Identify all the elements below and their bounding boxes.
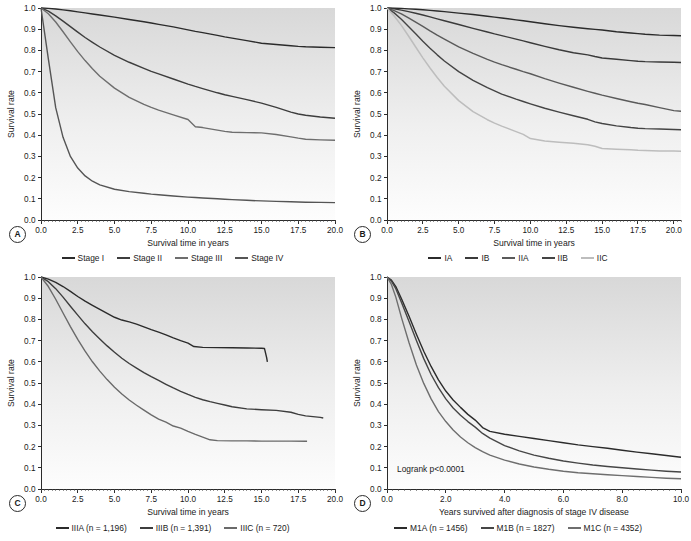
svg-text:0.8: 0.8 <box>24 46 36 55</box>
svg-text:15.0: 15.0 <box>254 226 270 235</box>
panel-a-plot: 0.00.10.20.30.40.50.60.70.80.91.00.02.55… <box>0 0 345 270</box>
legend-item-label: M1A (n = 1456) <box>410 523 468 533</box>
legend-line-icon <box>568 527 581 529</box>
svg-text:17.5: 17.5 <box>630 226 646 235</box>
legend-item-iia[interactable]: IIA <box>502 253 528 263</box>
legend-item-iiib[interactable]: IIIB (n = 1,391) <box>140 523 212 533</box>
plot-background <box>387 8 681 220</box>
legend-item-stage[interactable]: Stage III <box>175 253 222 263</box>
legend-line-icon <box>140 527 153 529</box>
panel-b: 0.00.10.20.30.40.50.60.70.80.91.00.02.55… <box>345 0 691 270</box>
panel-c-legend: IIIA (n = 1,196)IIIB (n = 1,391)IIIC (n … <box>0 523 345 533</box>
survival-curves-figure: 0.00.10.20.30.40.50.60.70.80.91.00.02.55… <box>0 0 691 541</box>
svg-text:0.0: 0.0 <box>381 226 393 235</box>
legend-item-m1c[interactable]: M1C (n = 4352) <box>568 523 642 533</box>
legend-item-label: IB <box>481 253 489 263</box>
svg-text:0.6: 0.6 <box>370 358 382 367</box>
panel-d: 0.00.10.20.30.40.50.60.70.80.91.00.02.04… <box>345 265 691 541</box>
legend-item-iib[interactable]: IIB <box>542 253 568 263</box>
legend-item-stage[interactable]: Stage I <box>62 253 105 263</box>
svg-text:0.0: 0.0 <box>35 495 47 504</box>
svg-text:0.9: 0.9 <box>370 25 382 34</box>
legend-item-stage[interactable]: Stage II <box>117 253 162 263</box>
svg-text:12.5: 12.5 <box>217 226 233 235</box>
legend-item-label: Stage I <box>78 253 105 263</box>
legend-item-stage[interactable]: Stage IV <box>235 253 283 263</box>
legend-line-icon <box>394 527 407 529</box>
svg-text:0.7: 0.7 <box>24 337 36 346</box>
legend-item-label: M1B (n = 1827) <box>497 523 555 533</box>
svg-text:20.0: 20.0 <box>327 495 343 504</box>
svg-text:0.4: 0.4 <box>24 400 36 409</box>
svg-text:0.0: 0.0 <box>370 485 382 494</box>
legend-item-ia[interactable]: IA <box>428 253 452 263</box>
legend-item-iiia[interactable]: IIIA (n = 1,196) <box>56 523 127 533</box>
svg-text:1.0: 1.0 <box>370 273 382 282</box>
svg-text:8.0: 8.0 <box>617 495 629 504</box>
svg-text:2.5: 2.5 <box>72 226 84 235</box>
legend-item-label: Stage II <box>133 253 162 263</box>
svg-text:0.0: 0.0 <box>381 495 393 504</box>
svg-text:0.7: 0.7 <box>24 68 36 77</box>
legend-item-m1a[interactable]: M1A (n = 1456) <box>394 523 468 533</box>
legend-line-icon <box>62 257 75 259</box>
svg-text:0.2: 0.2 <box>370 174 382 183</box>
svg-text:5.0: 5.0 <box>109 495 121 504</box>
svg-text:0.5: 0.5 <box>370 110 382 119</box>
svg-text:1.0: 1.0 <box>24 273 36 282</box>
svg-text:0.4: 0.4 <box>370 400 382 409</box>
panel-d-xaxis-title: Years survived after diagnosis of stage … <box>439 507 629 517</box>
svg-text:0.3: 0.3 <box>370 152 382 161</box>
panel-label-b: B <box>354 226 371 243</box>
svg-text:7.5: 7.5 <box>489 226 501 235</box>
panel-label-d: D <box>354 495 371 512</box>
panel-c-xaxis-title: Survival time in years <box>147 507 229 517</box>
legend-item-label: Stage IV <box>251 253 283 263</box>
svg-text:5.0: 5.0 <box>453 226 465 235</box>
panel-b-svg: 0.00.10.20.30.40.50.60.70.80.91.00.02.55… <box>345 0 691 270</box>
svg-text:0.0: 0.0 <box>24 485 36 494</box>
svg-text:12.5: 12.5 <box>558 226 574 235</box>
svg-text:0.8: 0.8 <box>370 315 382 324</box>
svg-text:0.1: 0.1 <box>24 195 36 204</box>
panel-c-svg: 0.00.10.20.30.40.50.60.70.80.91.00.02.55… <box>0 265 345 541</box>
svg-text:0.3: 0.3 <box>24 152 36 161</box>
svg-text:0.0: 0.0 <box>370 216 382 225</box>
legend-line-icon <box>224 527 237 529</box>
svg-text:0.6: 0.6 <box>24 358 36 367</box>
panel-c-yaxis-title: Survival rate <box>6 359 16 407</box>
svg-text:0.0: 0.0 <box>35 226 47 235</box>
svg-text:5.0: 5.0 <box>109 226 121 235</box>
legend-item-label: IIIB (n = 1,391) <box>156 523 212 533</box>
legend-line-icon <box>481 527 494 529</box>
svg-text:0.4: 0.4 <box>370 131 382 140</box>
legend-item-m1b[interactable]: M1B (n = 1827) <box>481 523 555 533</box>
legend-item-label: Stage III <box>191 253 222 263</box>
panel-d-yaxis-title: Survival rate <box>352 359 362 407</box>
svg-text:4.0: 4.0 <box>499 495 511 504</box>
panel-a-svg: 0.00.10.20.30.40.50.60.70.80.91.00.02.55… <box>0 0 345 270</box>
legend-line-icon <box>502 257 515 259</box>
svg-text:17.5: 17.5 <box>290 495 306 504</box>
legend-item-iiic[interactable]: IIIC (n = 720) <box>224 523 289 533</box>
svg-text:0.9: 0.9 <box>370 294 382 303</box>
svg-text:0.8: 0.8 <box>24 315 36 324</box>
svg-text:1.0: 1.0 <box>370 4 382 13</box>
svg-text:0.9: 0.9 <box>24 25 36 34</box>
svg-text:10.0: 10.0 <box>522 226 538 235</box>
svg-text:2.0: 2.0 <box>440 495 452 504</box>
svg-text:0.7: 0.7 <box>370 337 382 346</box>
svg-text:0.5: 0.5 <box>370 379 382 388</box>
legend-item-label: IIIA (n = 1,196) <box>72 523 127 533</box>
legend-item-iic[interactable]: IIC <box>581 253 608 263</box>
plot-background <box>41 8 335 220</box>
legend-item-label: IIIC (n = 720) <box>240 523 289 533</box>
svg-text:0.2: 0.2 <box>24 174 36 183</box>
svg-text:1.0: 1.0 <box>24 4 36 13</box>
legend-item-label: IIA <box>518 253 528 263</box>
legend-item-ib[interactable]: IB <box>465 253 489 263</box>
legend-line-icon <box>235 257 248 259</box>
panel-d-svg: 0.00.10.20.30.40.50.60.70.80.91.00.02.04… <box>345 265 691 541</box>
panel-d-logrank-annotation: Logrank p<0.0001 <box>397 464 465 474</box>
panel-a-legend: Stage IStage IIStage IIIStage IV <box>0 253 345 263</box>
